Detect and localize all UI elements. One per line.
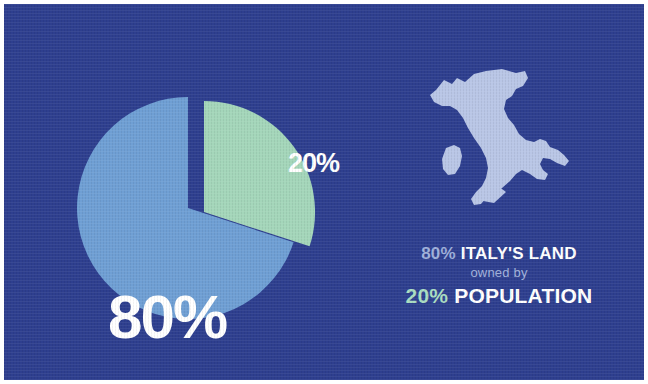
caption-population-text: POPULATION — [454, 284, 592, 307]
caption-block: 80% ITALY'S LAND owned by 20% POPULATION — [374, 244, 624, 307]
caption-land-text: ITALY'S LAND — [461, 244, 577, 263]
pie-label-major: 80% — [108, 286, 226, 348]
italy-map-icon — [424, 62, 594, 222]
pie-chart: 80% 20% — [52, 52, 352, 352]
italy-mainland-shape — [430, 69, 569, 205]
infographic-canvas: 80% 20% 80% ITALY'S LAND owned by 20% PO… — [4, 4, 644, 380]
caption-line-population: 20% POPULATION — [374, 284, 624, 308]
caption-line-ownedby: owned by — [374, 266, 624, 281]
sardinia-shape — [442, 145, 462, 175]
pie-label-minor: 20% — [288, 150, 339, 177]
italy-map-illustration — [424, 62, 594, 222]
caption-population-percent: 20% — [406, 284, 449, 307]
caption-line-land: 80% ITALY'S LAND — [374, 244, 624, 263]
infographic-stage: 80% 20% 80% ITALY'S LAND owned by 20% PO… — [0, 0, 648, 384]
caption-land-percent: 80% — [421, 244, 456, 263]
